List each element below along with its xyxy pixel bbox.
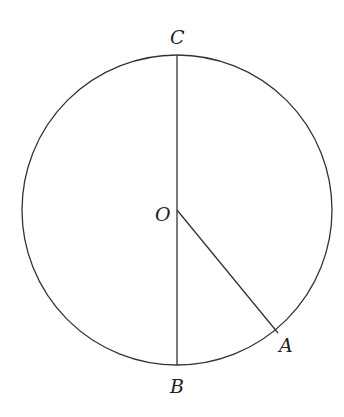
label-c: C <box>170 26 185 48</box>
radius-oa <box>177 210 278 333</box>
circle-diagram: C O A B <box>0 0 344 417</box>
label-b: B <box>169 375 184 397</box>
label-a: A <box>277 334 293 356</box>
label-o: O <box>155 203 171 225</box>
